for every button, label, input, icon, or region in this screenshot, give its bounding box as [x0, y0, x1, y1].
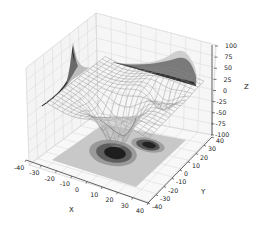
x-tick-label: 0: [75, 186, 79, 193]
y-tick-label: 30: [208, 145, 216, 152]
z-tick-label: -25: [217, 98, 227, 105]
z-axis-label: Z: [244, 83, 249, 91]
y-tick-label: 10: [192, 162, 200, 169]
z-tick-label: 75: [225, 53, 233, 60]
z-tick-label: 100: [225, 42, 237, 49]
x-tick-label: 10: [90, 191, 98, 198]
y-axis-label: Y: [200, 188, 206, 196]
x-tick-label: 40: [136, 207, 144, 214]
z-tick-label: 25: [224, 76, 232, 83]
x-tick-label: -10: [60, 180, 70, 187]
z-tick-label: -50: [216, 109, 226, 116]
x-tick-label: -20: [45, 175, 55, 182]
x-tick-label: -30: [29, 169, 39, 176]
x-tick-label: -40: [14, 164, 24, 171]
y-tick-label: -10: [176, 178, 186, 185]
z-tick-label: -75: [216, 120, 226, 127]
surface-3d-chart: -40-30-20-10010203040 -40-30-20-10010203…: [0, 0, 267, 232]
y-tick-label: 0: [184, 170, 188, 177]
x-axis-label: X: [69, 206, 74, 214]
y-tick-label: -30: [160, 195, 170, 202]
y-tick-label: -20: [168, 187, 178, 194]
z-tick-label: 50: [224, 64, 232, 71]
x-tick-label: 30: [121, 202, 129, 209]
y-tick-label: 20: [200, 154, 208, 161]
z-tick-label: 0: [223, 87, 227, 94]
x-tick-label: 20: [106, 196, 114, 203]
z-tick-label: -100: [215, 131, 229, 138]
y-tick-label: -40: [152, 203, 162, 210]
